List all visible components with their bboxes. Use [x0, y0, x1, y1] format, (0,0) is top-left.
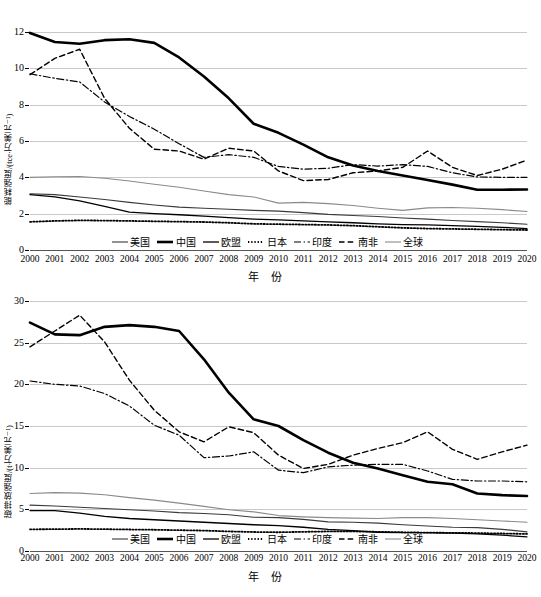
legend-label-eu: 欧盟 [221, 531, 241, 546]
legend-item-za[interactable]: 南非 [339, 531, 378, 546]
x-axis-tick-label: 2010 [265, 255, 293, 265]
x-axis-tick-label: 2014 [364, 255, 392, 265]
legend-swatch-jp [248, 237, 264, 246]
x-axis-tick-label: 2009 [240, 255, 268, 265]
x-axis-tick-label: 2004 [115, 554, 143, 564]
legend-item-in[interactable]: 印度 [294, 234, 333, 249]
legend-swatch-jp [248, 534, 264, 543]
legend-swatch-za [339, 534, 355, 543]
legend-item-in[interactable]: 印度 [294, 531, 333, 546]
legend-label-in: 印度 [312, 531, 332, 546]
legend-label-us: 美国 [130, 234, 150, 249]
legend-item-jp[interactable]: 日本 [248, 234, 287, 249]
legend-label-za: 南非 [358, 531, 378, 546]
x-axis-tick-label: 2013 [339, 255, 367, 265]
x-axis-tick-label: 2004 [115, 255, 143, 265]
legend-item-cn[interactable]: 中国 [157, 531, 196, 546]
x-axis-tick-label: 2003 [91, 554, 119, 564]
x-axis-tick-label: 2019 [488, 554, 516, 564]
legend-label-cn: 中国 [176, 234, 196, 249]
legend-label-cn: 中国 [176, 531, 196, 546]
legend-label-za: 南非 [358, 234, 378, 249]
x-axis-tick-label: 2020 [513, 554, 541, 564]
x-axis-tick-label: 2011 [289, 255, 317, 265]
x-axis-tick-label: 2016 [414, 554, 442, 564]
x-axis-tick-label: 2003 [91, 255, 119, 265]
legend-swatch-za [339, 237, 355, 246]
x-axis-tick-label: 2016 [414, 255, 442, 265]
legend-swatch-cn [157, 237, 173, 246]
series-line-za [30, 315, 527, 468]
legend-item-world[interactable]: 全球 [385, 234, 424, 249]
legend-item-jp[interactable]: 日本 [248, 531, 287, 546]
series-line-za [30, 49, 527, 180]
x-axis-tick-label: 2011 [289, 554, 317, 564]
x-axis-tick-label: 2014 [364, 554, 392, 564]
legend-swatch-eu [203, 534, 219, 543]
legend-label-us: 美国 [130, 531, 150, 546]
plot-area [0, 298, 535, 596]
x-axis-tick-label: 2007 [190, 554, 218, 564]
x-axis-tick-label: 2008 [215, 255, 243, 265]
legend-item-us[interactable]: 美国 [112, 531, 151, 546]
x-axis-tick-label: 2005 [140, 255, 168, 265]
x-axis-title: 年 份 [0, 568, 535, 584]
x-axis-title: 年 份 [0, 268, 535, 284]
x-axis-tick-label: 2010 [265, 554, 293, 564]
legend-swatch-eu [203, 237, 219, 246]
legend-swatch-us [112, 237, 128, 246]
series-line-in [30, 381, 527, 482]
x-axis-tick-label: 2001 [41, 554, 69, 564]
chart-legend: 美国中国欧盟日本印度南非全球 [0, 531, 535, 546]
x-axis-tick-label: 2017 [438, 554, 466, 564]
x-axis-tick-label: 2019 [488, 255, 516, 265]
legend-label-world: 全球 [403, 234, 423, 249]
legend-item-za[interactable]: 南非 [339, 234, 378, 249]
legend-item-cn[interactable]: 中国 [157, 234, 196, 249]
x-axis-tick-label: 2017 [438, 255, 466, 265]
x-axis-tick-label: 2018 [463, 255, 491, 265]
x-axis-tick-label: 2002 [66, 554, 94, 564]
x-axis-tick-label: 2006 [165, 554, 193, 564]
legend-swatch-world [385, 237, 401, 246]
series-line-in [30, 74, 527, 178]
legend-item-eu[interactable]: 欧盟 [203, 531, 242, 546]
x-axis-tick-label: 2015 [389, 554, 417, 564]
chart-legend: 美国中国欧盟日本印度南非全球 [0, 234, 535, 249]
legend-label-jp: 日本 [267, 234, 287, 249]
legend-swatch-us [112, 534, 128, 543]
legend-swatch-in [294, 534, 310, 543]
x-axis-tick-label: 2001 [41, 255, 69, 265]
legend-swatch-cn [157, 534, 173, 543]
x-axis-tick-label: 2008 [215, 554, 243, 564]
legend-swatch-world [385, 534, 401, 543]
legend-item-eu[interactable]: 欧盟 [203, 234, 242, 249]
x-axis-tick-label: 2012 [314, 554, 342, 564]
x-axis-tick-label: 2000 [16, 255, 44, 265]
x-axis-tick-label: 2020 [513, 255, 541, 265]
legend-item-world[interactable]: 全球 [385, 531, 424, 546]
legend-label-world: 全球 [403, 531, 423, 546]
legend-item-us[interactable]: 美国 [112, 234, 151, 249]
x-axis-tick-label: 2018 [463, 554, 491, 564]
x-axis-tick-label: 2000 [16, 554, 44, 564]
x-axis-tick-label: 2015 [389, 255, 417, 265]
x-axis-tick-label: 2007 [190, 255, 218, 265]
x-axis-tick-label: 2012 [314, 255, 342, 265]
legend-label-jp: 日本 [267, 531, 287, 546]
x-axis-tick-label: 2009 [240, 554, 268, 564]
legend-label-in: 印度 [312, 234, 332, 249]
x-axis-tick-label: 2002 [66, 255, 94, 265]
carbon-intensity-panel: 碳排放强度/(t·万美元⁻¹)051015202530美国中国欧盟日本印度南非全… [0, 298, 535, 596]
x-axis-tick-label: 2006 [165, 255, 193, 265]
legend-swatch-in [294, 237, 310, 246]
x-axis-tick-label: 2005 [140, 554, 168, 564]
legend-label-eu: 欧盟 [221, 234, 241, 249]
energy-intensity-panel: 能耗强度/(tce·万美元⁻¹)024681012美国中国欧盟日本印度南非全球2… [0, 0, 535, 298]
x-axis-tick-label: 2013 [339, 554, 367, 564]
